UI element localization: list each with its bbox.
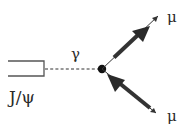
jpsi-label: J/ψ (7, 87, 35, 107)
muon-top-line (102, 16, 158, 69)
feynman-diagram: J/ψ γ μ μ (0, 0, 190, 132)
jpsi-box (8, 61, 44, 76)
photon-label: γ (71, 45, 80, 63)
muon-bottom-label: μ (167, 107, 177, 125)
muon-bottom-line (102, 69, 156, 113)
arrowhead-icon (107, 74, 125, 92)
muon-top-label: μ (167, 8, 177, 26)
